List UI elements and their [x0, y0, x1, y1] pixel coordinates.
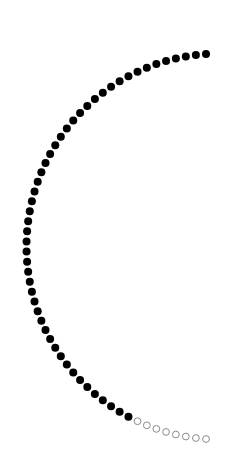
- empty-dot: [153, 425, 160, 432]
- filled-dot: [63, 361, 71, 369]
- filled-dot: [202, 50, 210, 58]
- filled-dot: [51, 344, 59, 352]
- filled-dot: [34, 307, 42, 315]
- filled-dot: [26, 207, 34, 215]
- filled-dot: [34, 178, 42, 186]
- filled-dot: [152, 60, 160, 68]
- filled-dot: [107, 402, 115, 410]
- filled-dot: [162, 57, 170, 65]
- filled-dot: [182, 52, 190, 60]
- filled-dot: [99, 89, 107, 97]
- empty-dot: [192, 435, 199, 442]
- empty-dot: [143, 422, 150, 429]
- filled-dot: [76, 109, 84, 117]
- filled-dot: [172, 54, 180, 62]
- filled-dot: [91, 95, 99, 103]
- filled-dot: [99, 396, 107, 404]
- filled-dot: [76, 376, 84, 384]
- filled-dot: [143, 64, 151, 72]
- filled-dot: [28, 288, 36, 296]
- filled-dot: [69, 368, 77, 376]
- filled-dot: [46, 150, 54, 158]
- filled-dot: [46, 335, 54, 343]
- filled-dot: [69, 117, 77, 125]
- filled-dot: [134, 68, 142, 76]
- dotted-arc-progress: [0, 0, 228, 473]
- filled-dot: [24, 217, 32, 225]
- filled-dot: [28, 197, 36, 205]
- filled-dot: [23, 258, 31, 266]
- filled-dot: [37, 317, 45, 325]
- filled-dot: [23, 248, 31, 256]
- filled-dot: [116, 408, 124, 416]
- filled-dot: [83, 102, 91, 110]
- filled-dot: [24, 268, 32, 276]
- empty-dot: [163, 429, 170, 436]
- empty-dot: [203, 436, 210, 443]
- filled-dot: [57, 352, 65, 360]
- filled-dot: [124, 72, 132, 80]
- filled-dot: [107, 83, 115, 91]
- filled-dot: [124, 413, 132, 421]
- filled-dot: [116, 77, 124, 85]
- filled-dot: [51, 141, 59, 149]
- filled-dot: [37, 168, 45, 176]
- filled-dot: [23, 227, 31, 235]
- filled-dot: [91, 390, 99, 398]
- filled-dot: [42, 326, 50, 334]
- filled-dot: [31, 298, 39, 306]
- empty-dot: [134, 418, 141, 425]
- filled-dot: [42, 159, 50, 167]
- filled-dot: [192, 51, 200, 59]
- filled-dot: [63, 124, 71, 132]
- empty-dot: [172, 431, 179, 438]
- empty-dot: [182, 433, 189, 440]
- filled-dot: [23, 237, 31, 245]
- filled-dot: [26, 278, 34, 286]
- filled-dot: [31, 187, 39, 195]
- filled-dot: [57, 133, 65, 141]
- filled-dot: [83, 383, 91, 391]
